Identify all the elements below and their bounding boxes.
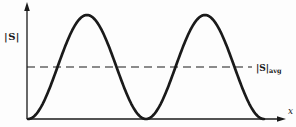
y-axis-label: |S| bbox=[4, 32, 20, 42]
average-label: |S|avg bbox=[256, 64, 282, 75]
x-axis-arrowhead bbox=[277, 116, 286, 122]
average-label-main: |S| bbox=[256, 63, 269, 73]
y-axis-arrowhead bbox=[24, 2, 30, 11]
plot-canvas bbox=[0, 0, 296, 127]
x-axis-label: x bbox=[288, 107, 293, 116]
waveform-figure: |S| |S|avg x bbox=[0, 0, 296, 127]
average-label-subscript: avg bbox=[269, 67, 282, 75]
